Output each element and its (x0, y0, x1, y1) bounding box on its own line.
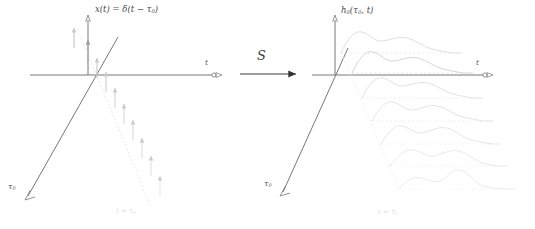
impulse-response-trace (372, 102, 493, 121)
figure-canvas: x(t) = δ(t − τ0) t τ0 t = τ0 S h0(τ0, t)… (0, 0, 535, 229)
left-t-axis (30, 73, 222, 78)
right-tau-axis (280, 48, 348, 196)
left-signal-label: x(t) = δ(t − τ0) (95, 5, 158, 14)
left-t-axis-label: t (205, 59, 208, 67)
right-amplitude-axis (333, 15, 338, 75)
right-tau-axis-label: τ0 (264, 180, 272, 188)
impulse-response-trace (390, 150, 508, 166)
left-impulse-locus (78, 30, 150, 205)
operator-symbol: S (257, 49, 266, 62)
right-slice-label: t = τ0 (378, 209, 398, 216)
left-slice-label: t = τ0 (116, 208, 136, 215)
right-signal-label: h0(τ0, t) (341, 6, 373, 15)
impulse-response-trace (399, 170, 516, 189)
left-panel-graphics (0, 0, 535, 229)
left-tau-axis-label: τ0 (8, 183, 16, 191)
right-t-axis-label: t (476, 59, 479, 67)
impulse-response-trace (341, 32, 462, 53)
left-tau-axis (25, 37, 118, 200)
impulse-response-trace (352, 52, 473, 73)
impulse-response-trace (381, 126, 500, 144)
impulse-response-trace (362, 78, 483, 98)
impulse-response-traces (341, 32, 516, 189)
left-impulse-arrows (74, 28, 160, 196)
